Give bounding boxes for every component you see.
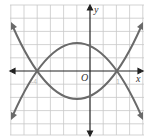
graph: y x O -4 1 bbox=[0, 0, 149, 138]
y-axis-up-arrow-icon bbox=[88, 5, 93, 10]
left-root-label: -4 bbox=[31, 78, 37, 85]
grid bbox=[10, 5, 144, 135]
right-root-label: 1 bbox=[116, 78, 120, 85]
x-axis-label: x bbox=[135, 73, 141, 84]
y-axis-label: y bbox=[93, 4, 99, 15]
origin-label: O bbox=[81, 72, 88, 83]
